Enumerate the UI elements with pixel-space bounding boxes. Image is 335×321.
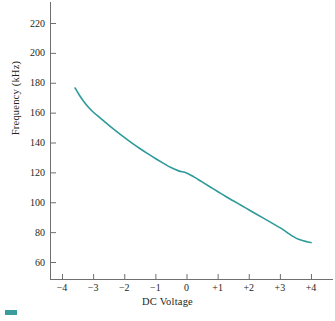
corner-color-mark: [5, 310, 17, 315]
y-tick-label: 60: [35, 257, 45, 268]
frequency-curve: [75, 88, 311, 243]
x-axis-title: DC Voltage: [0, 296, 335, 307]
y-tick-label: 220: [30, 18, 45, 29]
y-tick-label: 200: [30, 47, 45, 58]
x-tick-label: −1: [150, 282, 161, 293]
x-tick-label: +3: [275, 282, 286, 293]
x-axis-ticks: −4−3−2−10+1+2+3+4: [57, 274, 317, 293]
y-tick-label: 140: [30, 137, 45, 148]
data-series-group: [75, 88, 311, 243]
y-tick-label: 160: [30, 107, 45, 118]
x-tick-label: +2: [243, 282, 254, 293]
y-axis-ticks: 6080100120140160180200220: [30, 18, 56, 268]
axes: [51, 2, 334, 280]
figure-container: 6080100120140160180200220 −4−3−2−10+1+2+…: [0, 0, 335, 321]
y-axis-title: Frequency (kHz): [10, 28, 26, 168]
y-tick-label: 120: [30, 167, 45, 178]
chart-canvas: 6080100120140160180200220 −4−3−2−10+1+2+…: [0, 0, 335, 321]
x-tick-label: −3: [88, 282, 99, 293]
x-tick-label: +1: [212, 282, 223, 293]
y-tick-label: 100: [30, 197, 45, 208]
y-tick-label: 180: [30, 77, 45, 88]
x-tick-label: −4: [57, 282, 68, 293]
y-tick-label: 80: [35, 227, 45, 238]
x-tick-label: −2: [119, 282, 130, 293]
x-tick-label: 0: [184, 282, 189, 293]
x-tick-label: +4: [306, 282, 317, 293]
